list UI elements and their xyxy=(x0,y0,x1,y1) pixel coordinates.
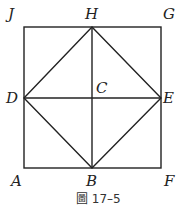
label-J: J xyxy=(5,5,15,23)
label-F: F xyxy=(163,172,175,190)
label-H: H xyxy=(84,5,99,23)
figure-caption: 圖 17–5 xyxy=(76,192,121,206)
label-G: G xyxy=(163,5,175,23)
label-A: A xyxy=(9,172,22,190)
label-E: E xyxy=(162,89,174,107)
label-B: B xyxy=(85,172,97,190)
geometry-figure: J H G D C E A B F 圖 17–5 xyxy=(0,0,185,207)
figure-lines xyxy=(24,27,161,168)
label-C: C xyxy=(96,79,108,97)
label-D: D xyxy=(5,89,18,107)
